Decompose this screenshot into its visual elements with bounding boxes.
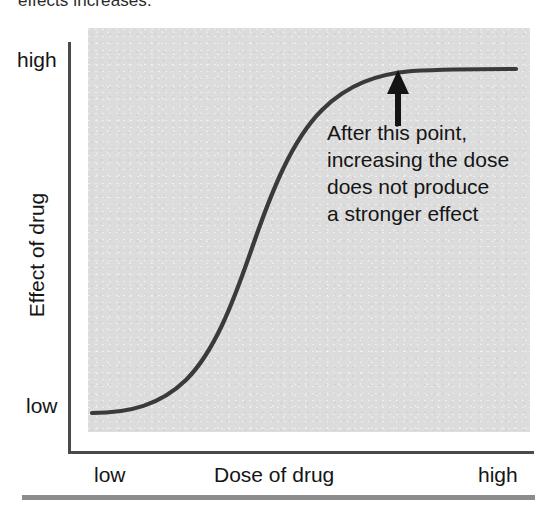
x-axis-tick-high: high	[478, 463, 518, 487]
y-axis-tick-high: high	[17, 48, 57, 72]
annotation-line-4: a stronger effect	[327, 200, 509, 227]
dose-response-figure: high low low high Dose of drug Effect of…	[0, 0, 554, 517]
y-axis-tick-low: low	[26, 394, 58, 418]
bottom-divider-rule	[22, 495, 535, 500]
callout-arrow-icon	[387, 70, 409, 126]
annotation-callout-text: After this point, increasing the dose do…	[327, 119, 509, 227]
annotation-line-1: After this point,	[327, 119, 509, 146]
y-axis-title: Effect of drug	[25, 175, 49, 335]
curve-overlay	[0, 0, 554, 517]
x-axis-tick-low: low	[94, 463, 126, 487]
x-axis-title: Dose of drug	[214, 463, 334, 487]
annotation-line-2: increasing the dose	[327, 146, 509, 173]
annotation-line-3: does not produce	[327, 173, 509, 200]
